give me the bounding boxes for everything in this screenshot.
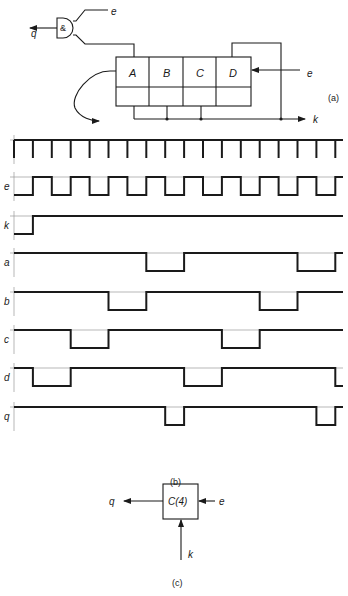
waveform-d [14,368,343,386]
and-gate-icon: & [57,18,73,38]
waveform-b [14,292,343,310]
caption-c: (c) [172,578,183,588]
signal-label-d: d [4,372,10,383]
signal-label-k: k [4,220,10,231]
shift-register: A B C D [116,57,251,106]
counter-output-label: q [109,496,115,507]
waveform-k [14,216,343,234]
waveform-a [14,253,343,271]
signal-label-b: b [4,296,10,307]
panel-c: C(4) q e k (c) [109,484,225,588]
cell-c: C [196,67,204,79]
caption-a: (a) [328,93,339,103]
panel-a: & q e A B C D e k [30,6,339,125]
counter-label: C(4) [168,496,187,507]
cell-d: D [229,67,237,79]
shift-arrow [74,71,116,121]
k-output-label: k [313,114,319,125]
gate-input-e-wire [73,10,108,21]
signal-label-e: e [4,181,10,192]
gate-symbol: & [60,23,66,33]
junction-dot [165,117,168,120]
counter-reset-label: k [188,549,194,560]
junction-dot [279,117,282,120]
signal-label-c: c [4,334,9,345]
waveform-c [14,330,343,348]
panel-b-timing-diagram: ekabcdq [4,135,343,431]
cell-b: B [163,67,170,79]
gate-input-e-label: e [111,6,117,17]
gate-output-label: q [31,28,37,39]
waveform-e [14,177,343,195]
feedback-wire [232,43,281,119]
caption-b: (b) [170,477,181,487]
signal-label-q: q [4,411,10,422]
waveform-q [14,407,343,425]
signal-label-a: a [4,257,10,268]
counter-input-label: e [219,496,225,507]
clock-input-label: e [307,68,313,79]
gate-input-a-wire [73,35,134,57]
figure: & q e A B C D e k [0,0,348,596]
cell-a: A [128,67,136,79]
junction-dot [199,117,202,120]
